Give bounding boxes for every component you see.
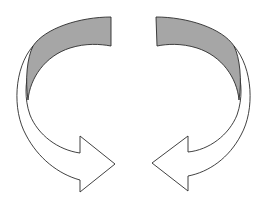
left-curved-arrow-icon <box>17 17 115 192</box>
right-arrow-band <box>156 17 240 100</box>
right-curved-arrow-icon <box>152 17 250 191</box>
cycle-diagram: Two curved arrows forming a circular cyc… <box>0 0 267 202</box>
left-arrow-band <box>27 17 111 100</box>
cycle-arrows-svg <box>0 0 267 202</box>
